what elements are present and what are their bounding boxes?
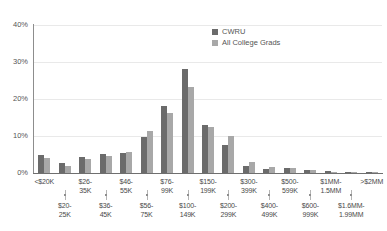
bar xyxy=(331,172,337,173)
x-axis-label: $20-25K xyxy=(45,202,85,219)
bar-group xyxy=(75,25,95,173)
bar xyxy=(290,168,296,173)
x-axis-label: $500-599K xyxy=(270,178,310,195)
y-tick-10: 10% xyxy=(0,132,28,140)
bar-group xyxy=(280,25,300,173)
x-axis-label: $300-399K xyxy=(229,178,269,195)
x-axis-label: $46-55K xyxy=(106,178,146,195)
x-axis-label: $150-199K xyxy=(188,178,228,195)
bar xyxy=(372,172,378,173)
x-axis-labels: <$20K$20-25K$26-35K$36-45K$46-55K$56-75K… xyxy=(34,176,382,231)
y-tick-40: 40% xyxy=(0,21,28,29)
bar xyxy=(167,113,173,173)
x-axis-label: $56-75K xyxy=(127,202,167,219)
bar-group xyxy=(116,25,136,173)
x-axis-label: $600-999K xyxy=(290,202,330,219)
bar-group xyxy=(362,25,382,173)
bar-groups xyxy=(34,25,382,173)
x-axis-label: $400-499K xyxy=(249,202,289,219)
bar-group xyxy=(341,25,361,173)
bar xyxy=(188,87,194,173)
bar xyxy=(310,170,316,173)
bar xyxy=(65,166,71,173)
bar xyxy=(85,159,91,173)
bar-group xyxy=(177,25,197,173)
x-axis-label: $76-99K xyxy=(147,178,187,195)
x-axis-label: $36-45K xyxy=(86,202,126,219)
bar-group xyxy=(157,25,177,173)
y-axis-labels: 40% 30% 20% 10% 0% xyxy=(0,0,32,231)
bar xyxy=(44,158,50,173)
bar-group xyxy=(95,25,115,173)
y-tick-20: 20% xyxy=(0,95,28,103)
bar-group xyxy=(136,25,156,173)
x-axis-label: $100-149K xyxy=(168,202,208,219)
x-axis-tick-dot xyxy=(350,194,352,196)
chart-legend: CWRU All College Grads xyxy=(212,26,280,48)
bar-group xyxy=(321,25,341,173)
legend-item-cwru: CWRU xyxy=(212,26,280,37)
bar xyxy=(126,152,132,173)
x-axis-label: $1MM-1.5MM xyxy=(311,178,351,195)
x-axis-label: $1.6MM-1.99MM xyxy=(331,202,371,219)
y-tick-30: 30% xyxy=(0,58,28,66)
bar xyxy=(269,167,275,173)
legend-label-all-college-grads: All College Grads xyxy=(222,37,280,48)
bar-group xyxy=(54,25,74,173)
bar xyxy=(208,127,214,173)
income-distribution-bar-chart: 40% 30% 20% 10% 0% CWRU All College Grad… xyxy=(0,0,387,231)
bar-group xyxy=(300,25,320,173)
bar xyxy=(249,162,255,173)
bar-group xyxy=(34,25,54,173)
legend-label-cwru: CWRU xyxy=(222,26,245,37)
bar xyxy=(351,172,357,173)
x-axis-label: <$20K xyxy=(24,178,64,187)
bar xyxy=(147,131,153,173)
x-axis-label: $200-299K xyxy=(208,202,248,219)
x-axis-label: >$2MM xyxy=(352,178,387,187)
y-tick-0: 0% xyxy=(0,169,28,177)
legend-swatch-icon-all-college-grads xyxy=(212,40,218,46)
x-axis-line xyxy=(33,173,383,174)
legend-item-all-college-grads: All College Grads xyxy=(212,37,280,48)
x-axis-label: $26-35K xyxy=(65,178,105,195)
bar xyxy=(106,156,112,173)
bar xyxy=(228,136,234,173)
legend-swatch-icon-cwru xyxy=(212,29,218,35)
